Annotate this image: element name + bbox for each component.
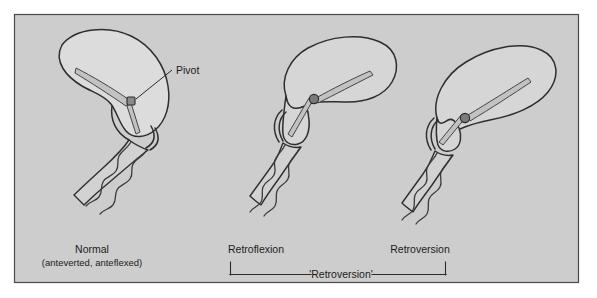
pivot-label: Pivot bbox=[176, 64, 199, 76]
anatomy-diagram: Pivot Normal (anteverted, anteflexed) Re… bbox=[0, 0, 597, 298]
pivot-marker-retroflexion bbox=[309, 94, 318, 103]
caption-normal-line2: (anteverted, anteflexed) bbox=[42, 257, 142, 268]
caption-retroversion: Retroversion bbox=[390, 243, 450, 255]
pivot-marker-normal bbox=[127, 97, 135, 105]
pivot-marker-retroversion bbox=[460, 113, 469, 122]
caption-normal-line1: Normal bbox=[75, 243, 109, 255]
caption-retroflexion: Retroflexion bbox=[228, 243, 284, 255]
figure-root: Pivot Normal (anteverted, anteflexed) Re… bbox=[0, 0, 597, 298]
bracket-label: 'Retroversion' bbox=[309, 268, 373, 280]
